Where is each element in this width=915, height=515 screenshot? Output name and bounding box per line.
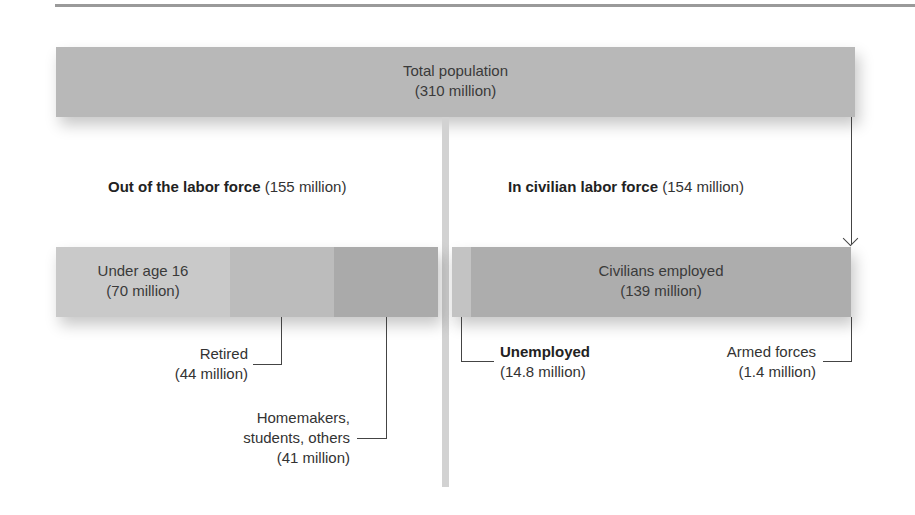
top-rule xyxy=(55,4,915,7)
arrow-line xyxy=(851,117,852,244)
homemakers-connector-vertical xyxy=(386,317,387,439)
retired-connector-vertical xyxy=(281,317,282,365)
retired-connector-horizontal xyxy=(253,364,282,365)
center-divider xyxy=(442,117,449,487)
homemakers-note: Homemakers, students, others (41 million… xyxy=(200,408,350,468)
unemployed-connector-vertical xyxy=(461,317,462,362)
total-population-label: Total population (310 million) xyxy=(56,61,855,101)
arrow-down-icon xyxy=(843,231,859,247)
unemployed-connector-horizontal xyxy=(461,361,494,362)
in-labor-force-heading: In civilian labor force (154 million) xyxy=(508,178,744,195)
segment-retired xyxy=(230,247,334,317)
out-of-labor-force-heading: Out of the labor force (155 million) xyxy=(108,178,346,195)
segment-unemployed xyxy=(452,247,471,317)
homemakers-connector-horizontal xyxy=(357,438,387,439)
unemployed-note: Unemployed (14.8 million) xyxy=(500,342,590,382)
out-of-labor-force-bar: Under age 16 (70 million) xyxy=(56,247,438,317)
armed-forces-connector-vertical xyxy=(851,317,852,362)
under-16-label: Under age 16 (70 million) xyxy=(56,261,230,301)
in-labor-force-bar: Civilians employed (139 million) xyxy=(452,247,851,317)
total-population-bar: Total population (310 million) xyxy=(56,47,855,117)
civilians-employed-label: Civilians employed (139 million) xyxy=(471,261,851,301)
retired-note: Retired (44 million) xyxy=(130,344,248,384)
segment-homemakers xyxy=(334,247,438,317)
armed-forces-note: Armed forces (1.4 million) xyxy=(680,342,816,382)
armed-forces-connector-horizontal xyxy=(823,361,852,362)
